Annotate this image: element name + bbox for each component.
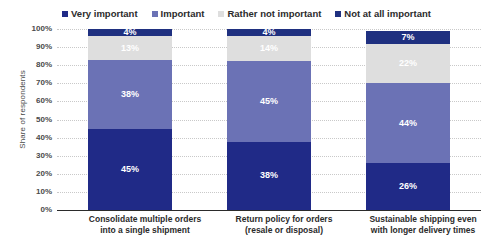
legend-label: Very important <box>71 9 138 19</box>
y-axis-tick-label: 90% <box>15 43 52 51</box>
legend-label: Important <box>161 9 205 19</box>
legend-swatch-icon <box>218 11 224 17</box>
bar-segment[interactable]: 4% <box>227 29 311 36</box>
y-axis-tick-label: 100% <box>15 25 52 33</box>
bar-segment-value-label: 4% <box>123 29 136 36</box>
x-axis-category-label: Return policy for orders(resale or dispo… <box>214 214 354 236</box>
bar-segment[interactable]: 44% <box>366 83 450 163</box>
category-label-line: with longer delivery times <box>353 225 493 236</box>
legend-label: Rather not important <box>227 9 321 19</box>
bar-segment[interactable]: 13% <box>88 36 172 60</box>
legend-item[interactable]: Rather not important <box>218 9 321 19</box>
plot-area: 0%10%20%30%40%50%60%70%80%90%100% 45%38%… <box>57 29 481 210</box>
bar-segment[interactable]: 26% <box>366 163 450 210</box>
legend-label: Not at all important <box>344 9 431 19</box>
y-axis-tick-label: 50% <box>15 116 52 124</box>
bar-segment[interactable]: 7% <box>366 31 450 44</box>
y-axis-tick-label: 70% <box>15 79 52 87</box>
y-axis-tick-label: 40% <box>15 134 52 142</box>
y-axis-tick-label: 0% <box>15 206 52 214</box>
x-axis-line <box>57 210 481 211</box>
category-label-line: (resale or disposal) <box>214 225 354 236</box>
y-axis-tick-label: 60% <box>15 97 52 105</box>
bar-segment-value-label: 22% <box>399 59 417 68</box>
y-axis-tick-label: 80% <box>15 61 52 69</box>
legend-item[interactable]: Not at all important <box>335 9 431 19</box>
bar-segment-value-label: 4% <box>262 29 275 36</box>
stacked-bar[interactable]: 26%44%22%7% <box>366 29 450 210</box>
chart-legend: Very importantImportantRather not import… <box>0 7 493 21</box>
legend-swatch-icon <box>152 11 158 17</box>
legend-item[interactable]: Very important <box>62 9 138 19</box>
bar-segment-value-label: 26% <box>399 182 417 191</box>
stacked-bar[interactable]: 38%45%14%4% <box>227 29 311 210</box>
y-axis-tick-label: 20% <box>15 170 52 178</box>
bar-segment-value-label: 44% <box>399 119 417 128</box>
bar-segment-value-label: 7% <box>401 33 414 42</box>
bar-segment[interactable]: 45% <box>88 129 172 210</box>
category-label-line: Consolidate multiple orders <box>75 214 215 225</box>
bar-segment-value-label: 45% <box>121 165 139 174</box>
category-label-line: Return policy for orders <box>214 214 354 225</box>
legend-item[interactable]: Important <box>152 9 205 19</box>
y-axis-tick-label: 10% <box>15 188 52 196</box>
legend-swatch-icon <box>62 11 68 17</box>
bar-segment[interactable]: 38% <box>88 60 172 129</box>
x-axis-category-label: Consolidate multiple ordersinto a single… <box>75 214 215 236</box>
y-axis-tick-label: 30% <box>15 152 52 160</box>
bar-segment[interactable]: 4% <box>88 29 172 36</box>
bar-segment[interactable]: 22% <box>366 44 450 84</box>
bar-segment-value-label: 45% <box>260 97 278 106</box>
bar-segment-value-label: 14% <box>260 44 278 53</box>
bar-segment[interactable]: 45% <box>227 61 311 142</box>
x-axis-category-label: Sustainable shipping evenwith longer del… <box>353 214 493 236</box>
bar-segment-value-label: 38% <box>260 171 278 180</box>
bar-segment[interactable]: 38% <box>227 142 311 210</box>
bar-segment-value-label: 38% <box>121 90 139 99</box>
bar-segment-value-label: 13% <box>121 44 139 53</box>
stacked-bar[interactable]: 45%38%13%4% <box>88 29 172 210</box>
legend-swatch-icon <box>335 11 341 17</box>
category-label-line: into a single shipment <box>75 225 215 236</box>
bar-segment[interactable]: 14% <box>227 36 311 61</box>
category-label-line: Sustainable shipping even <box>353 214 493 225</box>
